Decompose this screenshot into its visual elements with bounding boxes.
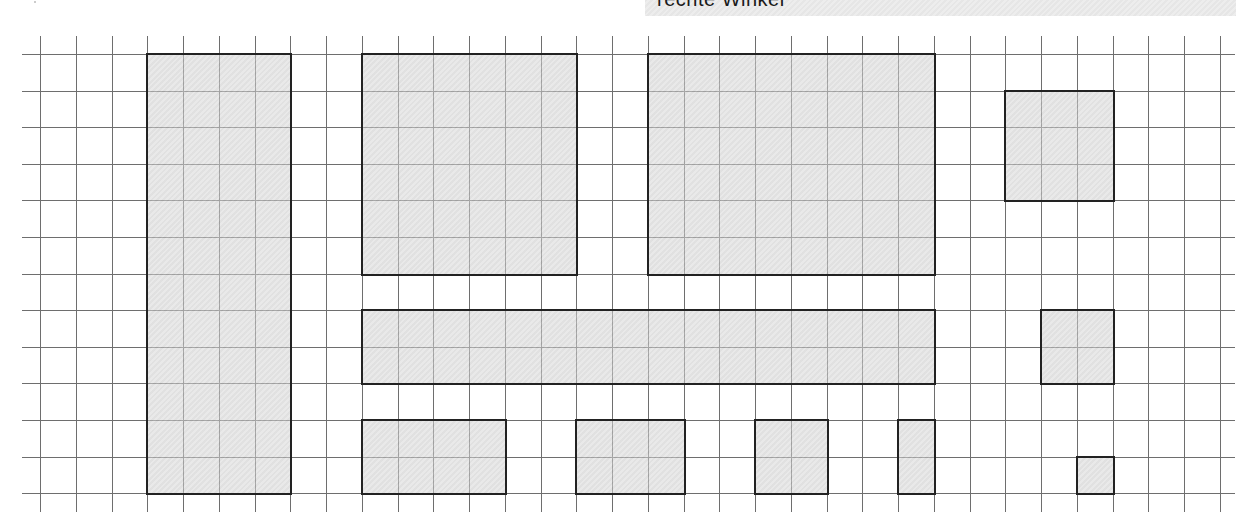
long-bar	[361, 309, 936, 385]
bottom-square-3	[754, 419, 829, 495]
large-square	[361, 53, 579, 276]
tall-rectangle	[146, 53, 292, 495]
bottom-rectangle-1	[361, 419, 507, 495]
paper-speck	[34, 1, 36, 3]
title-banner: rechte Winkel	[645, 0, 1236, 16]
bottom-rectangle-2	[575, 419, 685, 495]
bottom-bar-4	[897, 419, 936, 495]
square-right-middle	[1040, 309, 1115, 385]
large-rectangle	[647, 53, 936, 276]
title-text: rechte Winkel	[657, 0, 785, 11]
tiny-square	[1076, 456, 1115, 496]
small-square-top-right	[1004, 90, 1114, 203]
